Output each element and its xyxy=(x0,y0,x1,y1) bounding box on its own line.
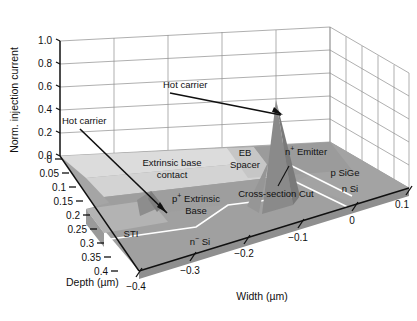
label-n-minus-si: n− Si xyxy=(190,235,210,247)
depth-axis-label: Depth (µm) xyxy=(66,276,119,288)
depth-tick-5: 0.25 xyxy=(68,224,88,235)
depth-tick-3: 0.15 xyxy=(54,196,74,207)
z-tick-4: 0.2 xyxy=(38,127,52,138)
z-axis-label: Norm. injection current xyxy=(8,47,20,153)
label-p-extrinsic-base-line2: Base xyxy=(185,205,207,216)
label-sti: STI xyxy=(124,228,139,239)
depth-tick-2: 0.1 xyxy=(52,182,66,193)
label-extrinsic-base-contact-line1: Extrinsic base xyxy=(142,157,201,168)
width-tick-0: −0.4 xyxy=(126,281,146,292)
label-eb-spacer-line2: Spacer xyxy=(230,159,260,170)
width-tick-4: 0 xyxy=(349,215,355,226)
figure-3d-surface-plot: 1.0 0.8 0.6 0.4 0.2 0.0 Norm. injection … xyxy=(0,0,417,321)
depth-tick-1: 0.05 xyxy=(40,168,60,179)
z-tick-3: 0.4 xyxy=(38,104,52,115)
z-tick-2: 0.6 xyxy=(38,81,52,92)
annotation-hot-carrier-left-text: Hot carrier xyxy=(62,115,106,126)
width-tick-3: −0.1 xyxy=(288,232,308,243)
width-tick-5: 0.1 xyxy=(395,199,409,210)
depth-tick-7: 0.35 xyxy=(82,252,102,263)
label-n-si: n Si xyxy=(342,183,358,194)
width-tick-2: −0.2 xyxy=(234,248,254,259)
plot-canvas: 1.0 0.8 0.6 0.4 0.2 0.0 Norm. injection … xyxy=(0,0,417,321)
width-axis-label: Width (µm) xyxy=(236,290,288,302)
width-tick-1: −0.3 xyxy=(180,265,200,276)
label-eb-spacer-line1: EB xyxy=(239,147,252,158)
label-extrinsic-base-contact-line2: contact xyxy=(157,169,188,180)
depth-tick-6: 0.3 xyxy=(80,238,94,249)
z-tick-1: 0.8 xyxy=(38,58,52,69)
label-p-sige: p SiGe xyxy=(330,167,359,178)
depth-tick-4: 0.2 xyxy=(66,210,80,221)
annotation-hot-carrier-top-text: Hot carrier xyxy=(163,79,207,90)
depth-tick-0: 0 xyxy=(46,154,52,165)
z-tick-0: 1.0 xyxy=(38,35,52,46)
annotation-cross-section-cut-text: Cross-section Cut xyxy=(238,188,314,199)
